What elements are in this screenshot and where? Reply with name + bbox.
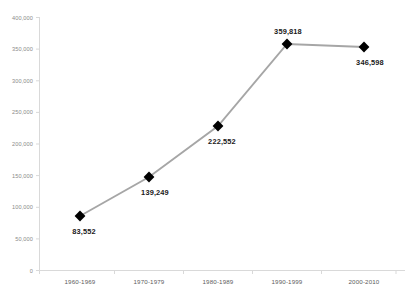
x-axis-ticks (40, 271, 397, 275)
data-point-label: 139,249 (141, 188, 169, 197)
y-tick-label: 0 (3, 268, 33, 274)
x-category-label: 2000-2010 (349, 278, 380, 285)
data-marker (75, 211, 86, 222)
y-tick-label: 250,000 (3, 109, 33, 115)
data-point-label: 83,552 (72, 227, 96, 236)
y-tick-label: 200,000 (3, 141, 33, 147)
chart-canvas (0, 0, 414, 299)
data-marker (359, 42, 370, 53)
data-line (80, 44, 364, 216)
line-chart: 400,000 350,000 300,000 250,000 200,000 … (0, 0, 414, 299)
y-axis-ticks (36, 18, 40, 271)
x-category-label: 1980-1989 (203, 278, 234, 285)
y-tick-label: 150,000 (3, 173, 33, 179)
y-tick-label: 300,000 (3, 78, 33, 84)
data-point-label: 222,552 (208, 137, 236, 146)
x-category-label: 1990-1999 (272, 278, 303, 285)
x-category-label: 1960-1969 (65, 278, 96, 285)
y-tick-label: 100,000 (3, 204, 33, 210)
y-tick-label: 400,000 (3, 15, 33, 21)
data-point-label: 359,818 (274, 27, 302, 36)
data-point-label: 346,598 (356, 58, 384, 67)
y-tick-label: 350,000 (3, 46, 33, 52)
x-category-label: 1970-1979 (134, 278, 165, 285)
y-tick-label: 50,000 (3, 236, 33, 242)
